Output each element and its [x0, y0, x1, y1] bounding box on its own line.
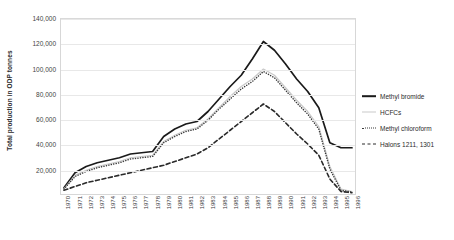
legend-line-icon [362, 108, 376, 116]
y-axis-tick-label: 140,000 [33, 15, 57, 22]
y-axis-tick-labels: 140,000120,000100,00080,00060,00040,0002… [16, 0, 58, 200]
x-axis-tick-label: 1989 [277, 196, 283, 209]
x-axis-tick-label: 1983 [210, 196, 216, 209]
x-axis-tick-label: 1986 [244, 196, 250, 209]
x-axis-tick-label: 1985 [233, 196, 239, 209]
x-axis-tick-label: 1975 [121, 196, 127, 209]
legend-item-label: Methyl chloroform [380, 125, 432, 132]
legend-line-icon [362, 92, 376, 100]
x-axis-tick-label: 1979 [166, 196, 172, 209]
legend-item-label: Halons 1211, 1301 [380, 141, 434, 148]
y-axis-tick-label: 40,000 [36, 141, 56, 148]
chart-container: Total production in ODP tonnes 140,00012… [0, 0, 454, 240]
x-axis-tick-label: 1994 [333, 196, 339, 209]
x-axis-tick-label: 1984 [222, 196, 228, 209]
gridline [61, 171, 355, 172]
x-axis-tick-label: 1991 [300, 196, 306, 209]
gridline [61, 145, 355, 146]
x-axis-tick-label: 1980 [177, 196, 183, 209]
chart-legend: Methyl bromideHCFCsMethyl chloroformHalo… [362, 88, 454, 152]
gridline [61, 19, 355, 20]
legend-line-icon [362, 140, 376, 148]
gridline [61, 44, 355, 45]
legend-line-icon [362, 124, 376, 132]
y-axis-title: Total production in ODP tonnes [2, 0, 16, 200]
x-axis-tick-label: 1972 [88, 196, 94, 209]
series-line [64, 69, 352, 192]
x-axis-tick-label: 1987 [255, 196, 261, 209]
gridline [61, 70, 355, 71]
x-axis-tick-labels: 1970197119721973197419751976197719781979… [60, 196, 356, 240]
y-axis-title-text: Total production in ODP tonnes [6, 50, 13, 150]
gridline [61, 120, 355, 121]
x-axis-tick-label: 1973 [99, 196, 105, 209]
legend-item[interactable]: Halons 1211, 1301 [362, 136, 454, 152]
gridline [61, 95, 355, 96]
legend-item-label: HCFCs [380, 109, 401, 116]
legend-item[interactable]: Methyl chloroform [362, 120, 454, 136]
x-axis-tick-label: 1977 [143, 196, 149, 209]
x-axis-tick-label: 1981 [188, 196, 194, 209]
y-axis-tick-label: 20,000 [36, 166, 56, 173]
x-axis-tick-label: 1978 [155, 196, 161, 209]
legend-item[interactable]: Methyl bromide [362, 88, 454, 104]
legend-item[interactable]: HCFCs [362, 104, 454, 120]
y-axis-tick-label: 60,000 [36, 116, 56, 123]
x-axis-tick-label: 1995 [344, 196, 350, 209]
y-axis-tick-label: 80,000 [36, 90, 56, 97]
y-axis-tick-label: 120,000 [33, 40, 57, 47]
x-axis-tick-label: 1982 [199, 196, 205, 209]
plot-area [60, 18, 356, 195]
x-axis-tick-label: 1993 [322, 196, 328, 209]
x-axis-tick-label: 1988 [266, 196, 272, 209]
y-axis-tick-label: 100,000 [33, 65, 57, 72]
x-axis-tick-label: 1976 [132, 196, 138, 209]
x-axis-tick-label: 1971 [77, 196, 83, 209]
legend-item-label: Methyl bromide [380, 93, 424, 100]
x-axis-tick-label: 1992 [311, 196, 317, 209]
x-axis-tick-label: 1990 [288, 196, 294, 209]
x-axis-tick-label: 1996 [355, 196, 361, 209]
series-line [64, 104, 352, 193]
x-axis-tick-label: 1970 [65, 196, 71, 209]
series-line [64, 72, 352, 193]
x-axis-tick-label: 1974 [110, 196, 116, 209]
